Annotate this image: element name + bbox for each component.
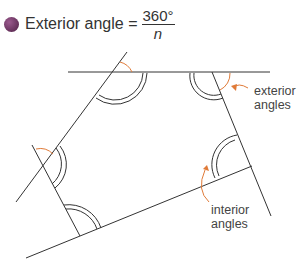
interior-angles-label: interior angles — [211, 203, 249, 231]
interior-label-line1: interior — [211, 203, 249, 217]
polygon-diagram — [0, 0, 303, 259]
exterior-label-line2: angles — [254, 98, 296, 112]
interior-label-line2: angles — [211, 217, 249, 231]
exterior-label-line1: exterior — [254, 84, 296, 98]
exterior-angles-label: exterior angles — [254, 84, 296, 112]
